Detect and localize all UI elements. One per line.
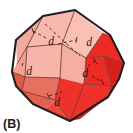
panel-label: (B) xyxy=(3,118,20,131)
label-d-bottom-center: d xyxy=(54,96,60,108)
label-d-top-center: d xyxy=(48,35,54,47)
figure-panel: d d d d d (B) xyxy=(0,0,133,133)
crystal-polyhedron-illustration: d d d d d xyxy=(0,0,133,133)
label-d-upper-right: d xyxy=(86,36,92,48)
label-d-left: d xyxy=(26,65,32,77)
label-d-right: d xyxy=(82,67,88,79)
